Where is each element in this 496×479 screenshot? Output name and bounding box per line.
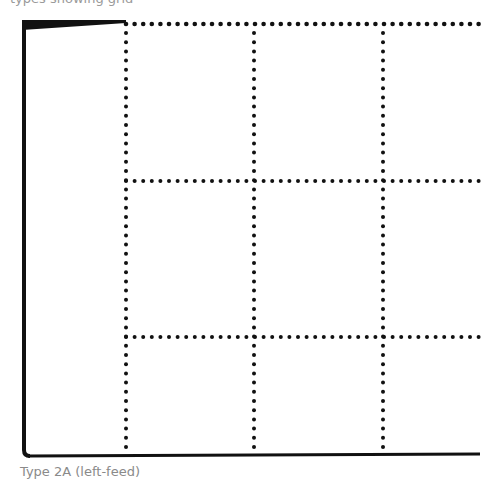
- left-frame-edge: [24, 22, 30, 456]
- vertical-dotted-lines: [124, 31, 385, 449]
- bottom-caption: Type 2A (left-feed): [20, 464, 140, 479]
- horizontal-dotted-lines: [124, 22, 481, 339]
- bottom-frame-edge: [28, 454, 480, 456]
- top-left-wedge: [22, 20, 126, 30]
